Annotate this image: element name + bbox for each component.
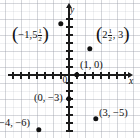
x-axis-tick	[124, 72, 125, 79]
x-axis-tick	[36, 72, 37, 79]
y-axis-tick	[66, 18, 73, 19]
y-axis-tick	[66, 50, 73, 51]
fraction-denominator: 2	[108, 35, 113, 43]
y-axis-tick	[66, 130, 73, 131]
coordinate-pair-text: −4, −6)	[0, 117, 30, 128]
coordinate-plane-figure: y x 0 (−1,512)(212, 3)(1, 0)(0, −3)(3, −…	[0, 0, 140, 138]
x-axis-tick	[52, 72, 53, 79]
point-label: −4, −6)	[0, 118, 30, 129]
x-axis-label: x	[129, 77, 133, 87]
mixed-whole-part: 5	[32, 29, 37, 40]
point-label: (−1,512)	[12, 28, 49, 43]
y-axis-tick	[66, 66, 73, 67]
origin-label: 0	[63, 76, 68, 86]
x-axis-tick	[100, 72, 101, 79]
y-axis-tick	[66, 42, 73, 43]
y-axis-tick	[66, 34, 73, 35]
x-axis-tick	[116, 72, 117, 79]
y-axis-label: y	[70, 6, 74, 16]
x-axis-tick	[108, 72, 109, 79]
y-axis-tick	[66, 58, 73, 59]
coordinate-x: −1,	[18, 29, 32, 40]
coordinate-y: , 3	[113, 29, 124, 40]
y-axis-tick	[66, 122, 73, 123]
x-axis-tick	[28, 72, 29, 79]
x-axis-tick	[92, 72, 93, 79]
mixed-whole-part: 2	[102, 29, 107, 40]
y-axis-tick	[66, 114, 73, 115]
coordinate-pair-text: (3, −5)	[99, 107, 128, 118]
fraction: 12	[108, 28, 113, 43]
y-axis-line	[68, 6, 70, 132]
point-label: (1, 0)	[80, 60, 103, 71]
y-axis-tick	[66, 26, 73, 27]
y-axis-tick	[66, 106, 73, 107]
x-axis-tick	[60, 72, 61, 79]
x-axis-tick	[84, 72, 85, 79]
point-label: (3, −5)	[99, 108, 128, 119]
fraction-numerator: 1	[108, 28, 113, 35]
x-axis-tick	[12, 72, 13, 79]
coordinate-pair-text: (0, −3)	[34, 92, 63, 103]
point-label: (0, −3)	[34, 93, 63, 104]
x-axis-tick	[20, 72, 21, 79]
point-label: (212, 3)	[96, 28, 130, 43]
y-axis-tick	[66, 90, 73, 91]
coordinate-pair-text: (1, 0)	[80, 59, 103, 70]
x-axis-tick	[44, 72, 45, 79]
